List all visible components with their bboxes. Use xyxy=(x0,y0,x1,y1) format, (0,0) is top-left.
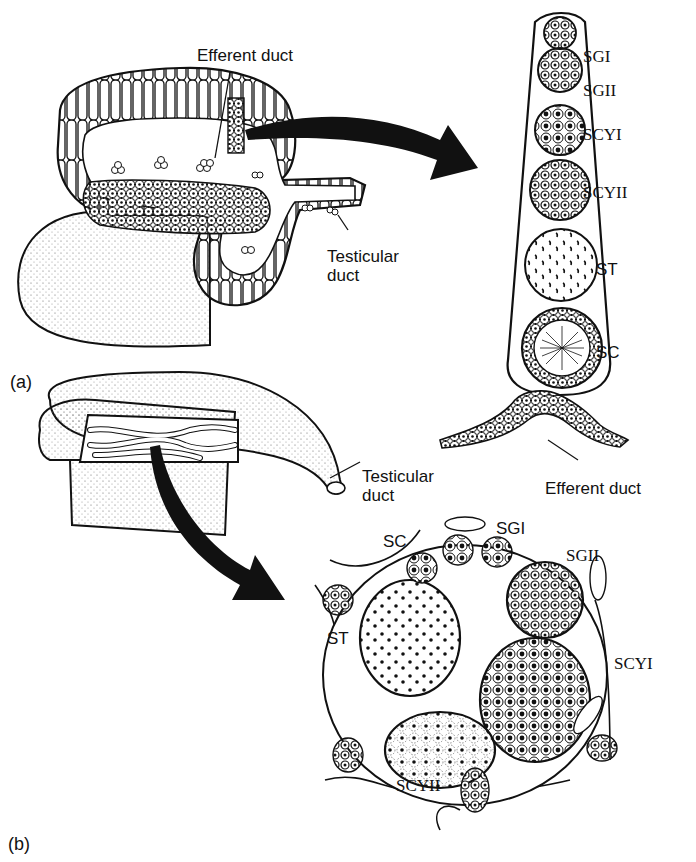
lobule-column xyxy=(508,13,611,395)
label-cyst-sgii: SGII xyxy=(566,547,599,564)
label-efferent-duct-top: Efferent duct xyxy=(197,47,293,64)
label-stage-sc: SC xyxy=(596,344,620,361)
label-cyst-st: ST xyxy=(327,630,349,647)
label-stage-st: ST xyxy=(596,261,618,278)
label-stage-sgi: SGI xyxy=(583,48,610,65)
panel-b-label: (b) xyxy=(8,834,30,855)
panel-b-testis-drawing xyxy=(39,372,360,535)
efferent-duct-epithelium xyxy=(440,391,628,448)
label-cyst-scyii: SCYII xyxy=(396,777,440,794)
label-testicular-duct-b-line1: Testicular xyxy=(362,468,434,485)
label-cyst-sc: SC xyxy=(383,533,407,550)
panel-a-label: (a) xyxy=(10,372,32,393)
label-testicular-duct-a-line1: Testicular xyxy=(327,248,399,265)
label-cyst-sgi: SGI xyxy=(496,520,525,537)
label-testicular-duct-b-line2: duct xyxy=(362,487,394,504)
label-stage-scyii: SCYII xyxy=(583,184,627,201)
label-cyst-scyi: SCYI xyxy=(614,655,653,672)
label-stage-sgii: SGII xyxy=(583,82,616,99)
label-efferent-duct-bottom: Efferent duct xyxy=(545,480,641,497)
label-stage-scyi: SCYI xyxy=(583,126,622,143)
panel-a-lobe-drawing xyxy=(18,68,365,347)
label-testicular-duct-a-line2: duct xyxy=(327,267,359,284)
